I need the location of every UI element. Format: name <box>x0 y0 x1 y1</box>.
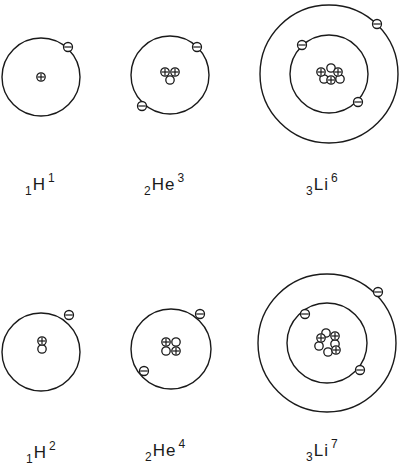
proton-icon <box>171 68 179 76</box>
nucleus <box>38 337 46 353</box>
proton-icon <box>317 68 325 76</box>
element-symbol: H <box>34 443 47 462</box>
isotope-label-li6: 3Li6 <box>306 176 338 193</box>
neutron-icon <box>38 345 46 353</box>
atom-h2 <box>2 311 80 392</box>
mass-number: 1 <box>48 171 55 185</box>
orbit-shell-1 <box>131 309 211 389</box>
proton-icon <box>334 68 342 76</box>
element-symbol: H <box>33 175 46 194</box>
electron-icon <box>196 310 205 319</box>
electron-icon <box>65 311 74 320</box>
atomic-number: 1 <box>25 184 32 198</box>
atomic-number: 2 <box>144 184 151 198</box>
neutron-icon <box>324 348 332 356</box>
atom-he3 <box>131 36 209 114</box>
proton-icon <box>37 73 45 81</box>
neutron-icon <box>315 342 323 350</box>
electron-icon <box>373 20 382 29</box>
element-symbol: He <box>152 175 176 194</box>
isotope-label-he4: 2He4 <box>145 442 185 459</box>
nucleus <box>315 329 340 356</box>
mass-number: 2 <box>49 439 56 453</box>
atomic-models-diagram <box>0 0 403 472</box>
mass-number: 7 <box>331 437 338 451</box>
nucleus <box>161 68 179 84</box>
electron-icon <box>301 310 310 319</box>
electron-icon <box>374 288 383 297</box>
proton-icon <box>331 332 339 340</box>
proton-icon <box>162 338 170 346</box>
electron-icon <box>193 43 202 52</box>
nucleus <box>317 64 344 84</box>
atom-li7 <box>258 274 396 412</box>
electron-icon <box>140 367 149 376</box>
isotope-label-he3: 2He3 <box>144 176 184 193</box>
atom-h1 <box>2 38 80 116</box>
isotope-label-h1: 1H1 <box>25 176 55 193</box>
element-symbol: Li <box>314 441 329 460</box>
electron-icon <box>138 102 147 111</box>
element-symbol: He <box>153 441 177 460</box>
proton-icon <box>327 76 335 84</box>
electron-icon <box>356 366 365 375</box>
mass-number: 4 <box>178 437 185 451</box>
isotope-label-li7: 3Li7 <box>306 442 338 459</box>
element-symbol: Li <box>314 175 329 194</box>
proton-icon <box>317 334 325 342</box>
atomic-number: 3 <box>306 184 313 198</box>
isotope-label-h2: 1H2 <box>26 444 56 461</box>
neutron-icon <box>172 338 180 346</box>
electron-icon <box>64 43 73 52</box>
electron-icon <box>298 41 307 50</box>
neutron-icon <box>162 347 170 355</box>
atomic-number: 3 <box>306 450 313 464</box>
neutron-icon <box>166 76 174 84</box>
proton-icon <box>172 347 180 355</box>
nucleus <box>37 73 45 81</box>
proton-icon <box>38 337 46 345</box>
atom-he4 <box>131 309 211 389</box>
atomic-number: 2 <box>145 450 152 464</box>
nucleus <box>162 338 180 355</box>
mass-number: 3 <box>177 171 184 185</box>
electron-icon <box>354 98 363 107</box>
proton-icon <box>332 346 340 354</box>
proton-icon <box>161 68 169 76</box>
atom-li6 <box>260 5 398 143</box>
atoms-layer <box>2 5 398 412</box>
atomic-number: 1 <box>26 452 33 466</box>
mass-number: 6 <box>331 171 338 185</box>
